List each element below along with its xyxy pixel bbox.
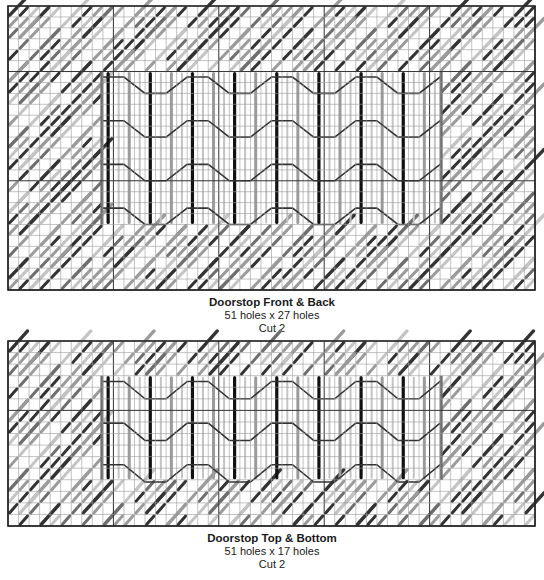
chart-top-bottom	[0, 0, 544, 580]
stitch-grid-top-bottom	[0, 0, 544, 580]
chart-cut-count: Cut 2	[0, 558, 544, 571]
chart-title: Doorstop Top & Bottom	[0, 532, 544, 545]
caption-top-bottom: Doorstop Top & Bottom 51 holes x 17 hole…	[0, 532, 544, 571]
chart-dimensions: 51 holes x 17 holes	[0, 545, 544, 558]
